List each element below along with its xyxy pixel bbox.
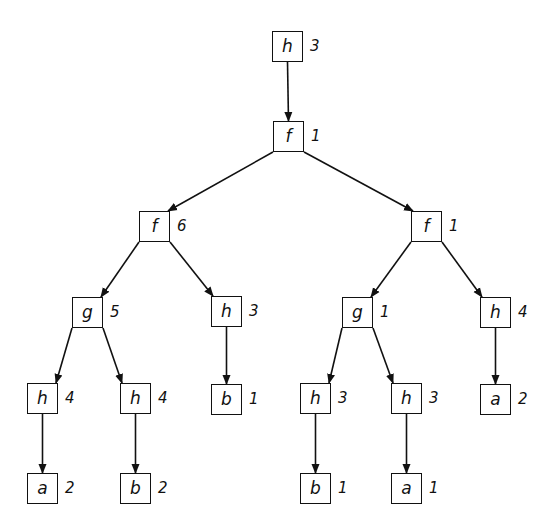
node-count: 6 (177, 219, 187, 234)
node-count: 2 (158, 481, 168, 496)
node-label: h (310, 390, 321, 407)
node-count: 2 (65, 481, 75, 496)
tree-node-g: g (342, 297, 373, 328)
edge-arrow (168, 152, 273, 211)
node-label: a (37, 480, 47, 497)
node-label: a (401, 480, 411, 497)
edge-arrow (101, 242, 139, 297)
tree-node-h: h (480, 297, 511, 328)
edge-arrow (103, 328, 122, 383)
node-count: 3 (310, 39, 320, 54)
node-label: b (221, 391, 232, 408)
tree-node-f: f (139, 211, 170, 242)
node-count: 1 (338, 481, 348, 496)
tree-node-a: a (480, 384, 511, 415)
node-label: f (286, 128, 292, 145)
node-count: 1 (380, 305, 390, 320)
node-count: 1 (429, 481, 439, 496)
tree-node-b: b (300, 473, 331, 504)
node-label: h (490, 304, 501, 321)
node-label: h (282, 38, 293, 55)
tree-edges (0, 0, 555, 527)
node-count: 4 (518, 305, 528, 320)
tree-node-f: f (411, 211, 442, 242)
node-count: 4 (65, 391, 75, 406)
edge-arrow (373, 328, 393, 383)
edge-arrow (442, 242, 482, 297)
node-count: 3 (429, 391, 439, 406)
edge-arrow (304, 152, 413, 211)
node-label: b (130, 480, 141, 497)
edge-arrow (288, 62, 289, 121)
tree-node-f: f (273, 121, 304, 152)
tree-node-a: a (27, 473, 58, 504)
node-count: 1 (311, 129, 321, 144)
node-label: h (37, 390, 48, 407)
node-count: 3 (249, 304, 259, 319)
tree-node-a: a (391, 473, 422, 504)
node-label: b (310, 480, 321, 497)
node-count: 3 (338, 391, 348, 406)
edge-arrow (170, 242, 213, 296)
tree-node-h: h (211, 296, 242, 327)
tree-node-h: h (27, 383, 58, 414)
node-label: h (130, 390, 141, 407)
node-label: g (82, 304, 93, 321)
tree-node-h: h (300, 383, 331, 414)
node-count: 4 (158, 391, 168, 406)
node-count: 1 (249, 392, 259, 407)
tree-diagram: h3f1f6f1g5h3g1h4h4h4b1h3h3a2a2b2b1a1 (0, 0, 555, 527)
tree-node-b: b (211, 384, 242, 415)
edge-arrow (56, 328, 72, 383)
edge-arrow (329, 328, 342, 383)
node-label: f (424, 218, 430, 235)
node-count: 2 (518, 392, 528, 407)
tree-node-h: h (272, 31, 303, 62)
node-label: a (490, 391, 500, 408)
node-label: h (401, 390, 412, 407)
node-label: h (221, 303, 232, 320)
edge-arrow (371, 242, 411, 297)
tree-node-b: b (120, 473, 151, 504)
node-label: f (152, 218, 158, 235)
node-count: 5 (110, 305, 120, 320)
tree-node-g: g (72, 297, 103, 328)
tree-node-h: h (120, 383, 151, 414)
node-count: 1 (449, 219, 459, 234)
tree-node-h: h (391, 383, 422, 414)
node-label: g (352, 304, 363, 321)
